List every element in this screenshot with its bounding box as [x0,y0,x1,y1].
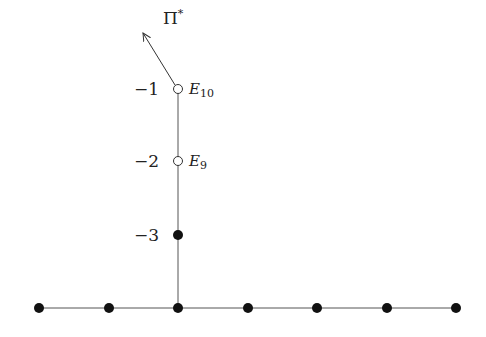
node-minus3: −3 [134,225,183,245]
node-e10: −1 E10 [134,79,214,100]
node [451,303,461,313]
weight-label: −3 [134,225,159,245]
weight-label: −2 [134,151,159,171]
dual-graph-diagram: Π* −1 E10 −2 E9 −3 [0,0,486,337]
weight-label: −1 [134,79,159,99]
node [34,303,44,313]
node [243,303,253,313]
node [312,303,322,313]
node-label: E9 [188,152,207,172]
arrow-label: Π* [163,7,184,28]
node [173,303,183,313]
arrow-pi-star [143,33,175,85]
node-label: E10 [188,80,214,100]
node [104,303,114,313]
node [382,303,392,313]
node-e9: −2 E9 [134,151,207,172]
